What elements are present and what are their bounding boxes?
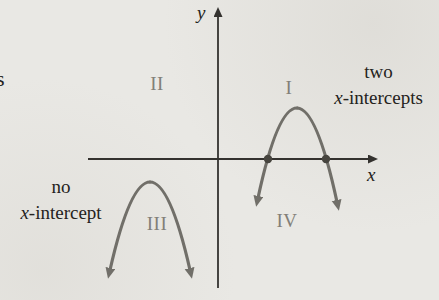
x-intercept-dot-right bbox=[322, 155, 330, 163]
x-intercept-dot-left bbox=[264, 155, 272, 163]
annotation-no-line1: no bbox=[2, 174, 120, 200]
annotation-no-line2: x-intercept bbox=[2, 200, 120, 226]
x-axis-label: x bbox=[367, 164, 375, 186]
coordinate-plane bbox=[0, 0, 439, 300]
quadrant-label-iii: III bbox=[147, 214, 167, 234]
y-axis-label: y bbox=[197, 2, 205, 24]
quadrant-label-iv: IV bbox=[276, 211, 297, 231]
quadrant-label-ii: II bbox=[150, 74, 164, 94]
parabola-two-intercepts-right-leg bbox=[297, 108, 337, 202]
annotation-no-x-intercept: no x-intercept bbox=[2, 174, 120, 226]
annotation-two-line1: two bbox=[318, 59, 439, 85]
parabola-two-intercepts bbox=[258, 108, 337, 202]
annotation-two-x-intercepts: two x-intercepts bbox=[318, 59, 439, 111]
annotation-no-suffix: -intercept bbox=[29, 202, 102, 223]
parabola-two-intercepts-left-leg bbox=[258, 108, 297, 198]
figure-canvas: s y x II I III IV two x-intercepts bbox=[0, 0, 439, 300]
annotation-two-x: x bbox=[334, 87, 342, 108]
annotation-two-suffix: -intercepts bbox=[343, 87, 423, 108]
annotation-no-x: x bbox=[20, 202, 28, 223]
quadrant-label-i: I bbox=[286, 78, 293, 98]
annotation-two-line2: x-intercepts bbox=[318, 85, 439, 111]
